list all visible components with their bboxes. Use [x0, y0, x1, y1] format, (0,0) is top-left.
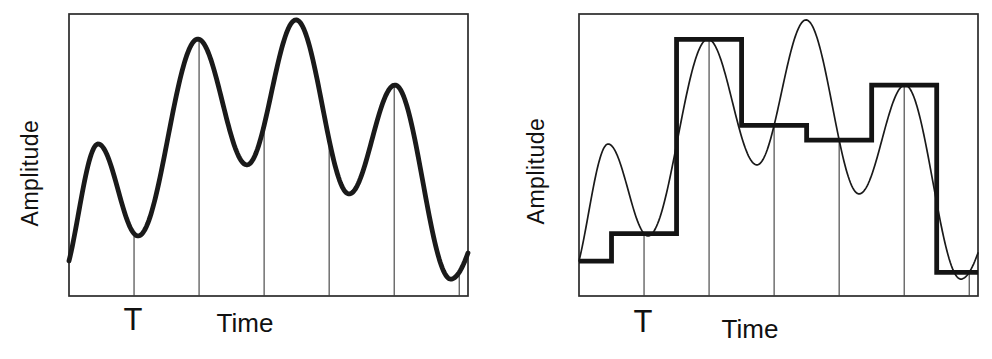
sampling-interval-label: T [634, 304, 653, 339]
analog-waveform-curve [579, 20, 978, 279]
sampling-figure: Amplitude Time T Amplitude Time T [0, 0, 992, 359]
y-axis-label: Amplitude [17, 120, 43, 227]
sample-and-hold-staircase [579, 39, 978, 272]
x-axis-label: Time [217, 308, 274, 338]
analog-signal-chart: Amplitude Time T [0, 0, 496, 359]
x-axis-label: Time [722, 314, 779, 344]
analog-waveform-curve [69, 20, 468, 279]
y-axis-label: Amplitude [523, 118, 549, 225]
sampled-signal-panel: Amplitude Time T [496, 0, 992, 359]
sample-and-hold-chart: Amplitude Time T [496, 0, 992, 359]
plot-frame [69, 14, 468, 296]
sampling-interval-label: T [124, 302, 143, 337]
plot-frame [579, 14, 978, 296]
analog-signal-panel: Amplitude Time T [0, 0, 496, 359]
sampling-instant-lines [644, 39, 969, 296]
